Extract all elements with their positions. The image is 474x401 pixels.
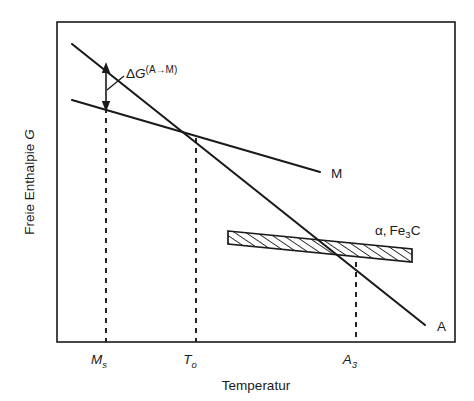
fe-text: Fe xyxy=(390,223,406,238)
delta-symbol: Δ xyxy=(126,66,135,81)
free-enthalpy-temperature-diagram: ΔG(A→M) M A α,Fe3C Ms To A3 Temperatur F… xyxy=(0,0,474,401)
g-symbol: G xyxy=(135,66,146,81)
y-axis-title-text: Freie Enthalpie xyxy=(22,144,37,235)
tick-ms-symbol: M xyxy=(91,352,103,367)
tick-to-subscript: o xyxy=(191,359,196,370)
plot-frame xyxy=(57,22,455,342)
figure-root: ΔG(A→M) M A α,Fe3C Ms To A3 Temperatur F… xyxy=(0,0,474,401)
alpha-symbol: α, xyxy=(375,223,387,238)
tick-label-a3: A3 xyxy=(342,352,358,370)
delta-superscript: (A→M) xyxy=(146,64,178,75)
curve-label-m: M xyxy=(331,166,342,181)
curve-label-a: A xyxy=(437,319,446,334)
y-axis-title: Freie EnthalpieG xyxy=(22,129,37,234)
tick-ms-subscript: s xyxy=(102,359,107,370)
tick-label-ms: Ms xyxy=(91,352,107,370)
c-text: C xyxy=(411,223,421,238)
x-axis-title: Temperatur xyxy=(222,378,291,393)
tick-label-to: To xyxy=(183,352,197,370)
tick-a3-symbol: A xyxy=(342,352,352,367)
tick-a3-subscript: 3 xyxy=(352,359,358,370)
y-axis-title-symbol: G xyxy=(22,129,37,140)
phase-label-alpha-fe3c: α,Fe3C xyxy=(375,223,421,240)
